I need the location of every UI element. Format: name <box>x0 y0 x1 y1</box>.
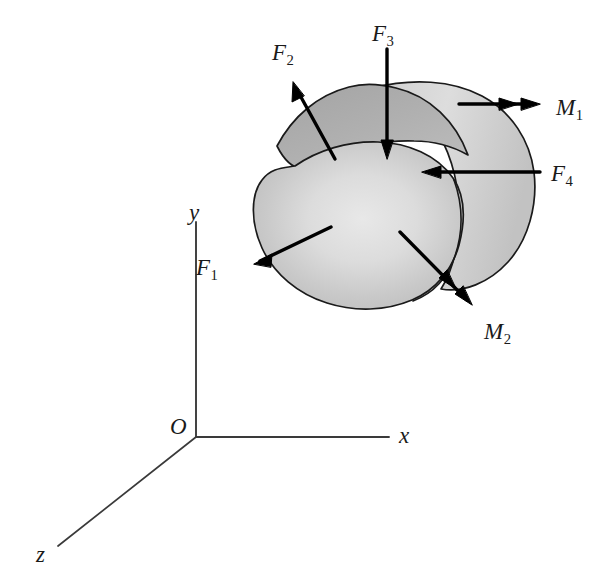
figure-canvas <box>0 0 615 586</box>
force-f1-label: F1 <box>196 256 218 282</box>
free-body-diagram-figure: y x z O F1 F2 F3 F4 M1 M2 <box>0 0 615 586</box>
force-f4-label: F4 <box>551 162 573 188</box>
z-axis-line <box>58 437 196 546</box>
body-front-face <box>253 142 463 309</box>
axis-label-y: y <box>189 201 199 224</box>
rigid-body <box>253 82 534 309</box>
axis-label-x: x <box>399 424 409 447</box>
force-f2-label: F2 <box>272 41 294 67</box>
axis-label-z: z <box>36 543 45 566</box>
moment-m1-label: M1 <box>556 96 583 122</box>
force-f3-label: F3 <box>372 22 394 48</box>
moment-m2-label: M2 <box>484 320 511 346</box>
origin-label: O <box>170 415 187 438</box>
